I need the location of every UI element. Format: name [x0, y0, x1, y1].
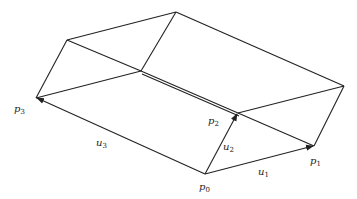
- label-u1: u1: [258, 166, 269, 179]
- edge-top-back-right: [176, 12, 344, 86]
- edge-top-left-top-back: [67, 12, 176, 40]
- edge-p3-mid: [36, 71, 141, 98]
- label-u2: u2: [223, 141, 234, 154]
- edge-mid-p2-b: [142, 74, 239, 116]
- label-p3: p3: [14, 103, 25, 116]
- edge-p2-right: [238, 86, 344, 113]
- label-p0: p0: [199, 181, 210, 194]
- vector-u3-arrow: [37, 98, 205, 174]
- edge-top-left-mid: [67, 40, 141, 71]
- parallelepiped-diagram: p0 p1 p2 p3 u1 u2 u3: [0, 0, 357, 199]
- edge-right-p1: [314, 86, 344, 146]
- label-p1: p1: [310, 155, 321, 168]
- edge-p2-p1: [238, 113, 314, 146]
- label-u3: u3: [96, 137, 107, 150]
- edge-mid-p2-a: [141, 71, 238, 113]
- edge-p3-top-left: [36, 40, 67, 98]
- edge-top-back-mid: [141, 12, 176, 71]
- label-p2: p2: [208, 115, 219, 128]
